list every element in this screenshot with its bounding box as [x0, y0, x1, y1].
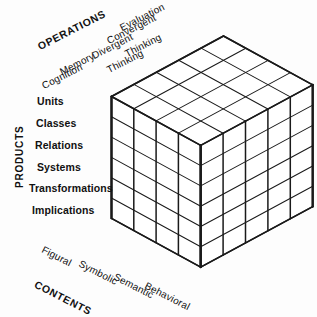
figure-canvas: OPERATIONS Evaluation Convergent Thinkin… — [0, 0, 317, 317]
products-item-units: Units — [37, 95, 64, 107]
products-item-classes: Classes — [36, 117, 76, 129]
axis-title-products: PRODUCTS — [14, 125, 25, 188]
products-item-systems: Systems — [37, 161, 81, 173]
products-item-implications: Implications — [32, 204, 94, 216]
products-item-relations: Relations — [35, 139, 83, 151]
products-item-transformations: Transformations — [29, 182, 113, 194]
